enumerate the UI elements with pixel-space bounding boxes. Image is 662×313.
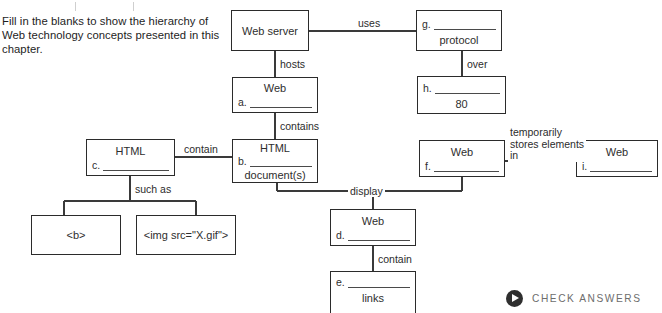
blank-h-letter: h. (423, 83, 432, 94)
edge-label-contain-bottom: contain (376, 253, 414, 265)
edge-label-over: over (465, 58, 489, 70)
node-html-b: HTML b. document(s) (232, 139, 318, 183)
node-tag-img: <img src="X.gif"> (136, 215, 236, 255)
node-web-i: Web i. (576, 140, 658, 177)
node-web-f-label: Web (420, 146, 504, 158)
node-protocol-sublabel: protocol (417, 34, 501, 46)
node-html-b-sublabel: document(s) (233, 169, 317, 181)
node-web-server-label: Web server (232, 25, 308, 37)
blank-h[interactable]: h. (423, 83, 500, 94)
blank-i-letter: i. (582, 161, 587, 172)
blank-i-rule[interactable] (590, 162, 652, 172)
node-port-80: h. 80 (417, 76, 506, 114)
node-html-c: HTML c. (86, 139, 175, 176)
blank-f-letter: f. (425, 161, 431, 172)
blank-e-letter: e. (336, 277, 345, 288)
node-web-d: Web d. (330, 209, 416, 246)
node-tag-b: <b> (31, 215, 121, 255)
node-web-a-label: Web (233, 82, 317, 94)
blank-c-letter: c. (92, 160, 100, 171)
node-html-b-label: HTML (233, 142, 317, 154)
node-web-i-label: Web (577, 146, 657, 158)
blank-h-rule[interactable] (435, 84, 500, 94)
node-web-a: Web a. (232, 77, 318, 113)
node-web-d-label: Web (331, 215, 415, 227)
node-protocol: g. protocol (416, 10, 502, 51)
blank-e[interactable]: e. (336, 277, 410, 288)
node-links-e-sublabel: links (331, 292, 415, 304)
blank-a-rule[interactable] (250, 98, 312, 108)
node-port-80-sublabel: 80 (418, 98, 505, 110)
blank-b[interactable]: b. (238, 156, 312, 167)
blank-g[interactable]: g. (422, 19, 496, 30)
blank-c-rule[interactable] (103, 161, 169, 171)
blank-c[interactable]: c. (92, 160, 169, 171)
edge-label-contains: contains (278, 120, 321, 132)
node-tag-b-label: <b> (32, 229, 120, 241)
blank-b-rule[interactable] (250, 157, 312, 167)
blank-f[interactable]: f. (425, 161, 499, 172)
blank-f-rule[interactable] (434, 162, 499, 172)
play-icon (506, 290, 523, 307)
blank-b-letter: b. (238, 156, 247, 167)
blank-a-letter: a. (238, 97, 247, 108)
edge-label-hosts: hosts (278, 58, 307, 70)
blank-i[interactable]: i. (582, 161, 652, 172)
node-html-c-label: HTML (87, 145, 174, 157)
blank-a[interactable]: a. (238, 97, 312, 108)
worksheet-canvas: Fill in the blanks to show the hierarchy… (0, 0, 662, 313)
edge-label-contain-top: contain (182, 143, 220, 155)
node-links-e: e. links (330, 271, 416, 313)
blank-g-rule[interactable] (434, 20, 496, 30)
blank-d-rule[interactable] (348, 231, 410, 241)
node-web-f: Web f. (419, 140, 505, 177)
edge-label-stores-elements: temporarily stores elements in (508, 127, 586, 162)
blank-d-letter: d. (336, 230, 345, 241)
blank-e-rule[interactable] (348, 278, 410, 288)
blank-g-letter: g. (422, 19, 431, 30)
blank-d[interactable]: d. (336, 230, 410, 241)
edge-label-display: display (348, 185, 385, 197)
check-answers-label: CHECK ANSWERS (532, 293, 642, 304)
node-tag-img-label: <img src="X.gif"> (137, 229, 235, 241)
check-answers-button[interactable]: CHECK ANSWERS (506, 290, 642, 307)
node-web-server: Web server (231, 10, 309, 51)
edge-label-such-as: such as (133, 183, 173, 195)
edge-label-uses: uses (356, 17, 382, 29)
